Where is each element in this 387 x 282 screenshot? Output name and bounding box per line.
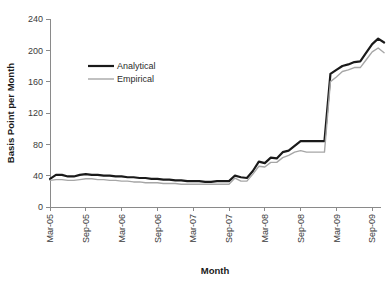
y-tick-label: 200 <box>28 46 43 56</box>
y-tick-label: 0 <box>38 202 43 212</box>
x-tick-label: Mar-07 <box>188 214 198 243</box>
x-tick-label: Mar-06 <box>117 214 127 243</box>
x-tick-label: Sep-07 <box>224 214 234 243</box>
y-axis-title: Basis Point per Month <box>5 63 16 163</box>
y-tick-label: 160 <box>28 77 43 87</box>
y-axis-ticks: 04080120160200240 <box>28 14 50 212</box>
x-axis-title: Month <box>201 265 230 276</box>
chart-figure: 04080120160200240 Mar-05Sep-05Mar-06Sep-… <box>0 0 387 282</box>
x-tick-label: Sep-09 <box>367 214 377 243</box>
x-tick-label: Mar-05 <box>45 214 55 243</box>
legend-label-analytical: Analytical <box>117 61 156 71</box>
x-tick-label: Sep-05 <box>81 214 91 243</box>
y-tick-label: 80 <box>33 140 43 150</box>
y-tick-label: 240 <box>28 14 43 24</box>
y-tick-label: 40 <box>33 171 43 181</box>
y-tick-label: 120 <box>28 108 43 118</box>
data-series-group <box>50 39 384 185</box>
series-line-empirical <box>50 48 384 184</box>
chart-legend: AnalyticalEmpirical <box>88 61 156 84</box>
x-tick-label: Mar-08 <box>260 214 270 243</box>
series-line-analytical <box>50 39 384 182</box>
x-tick-label: Sep-06 <box>153 214 163 243</box>
x-tick-label: Mar-09 <box>332 214 342 243</box>
x-tick-label: Sep-08 <box>296 214 306 243</box>
legend-label-empirical: Empirical <box>117 74 154 84</box>
line-chart: 04080120160200240 Mar-05Sep-05Mar-06Sep-… <box>0 0 387 282</box>
x-axis-ticks: Mar-05Sep-05Mar-06Sep-06Mar-07Sep-07Mar-… <box>45 207 377 243</box>
